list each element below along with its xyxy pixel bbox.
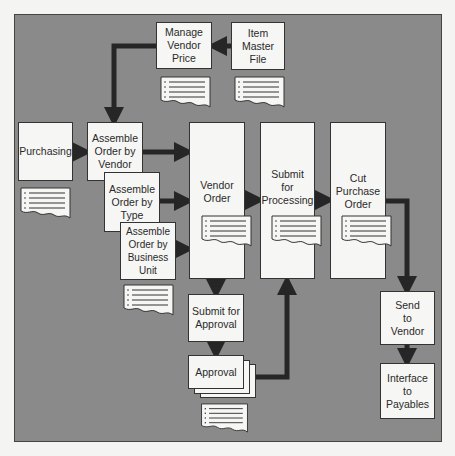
node-vendor-order: Vendor Order bbox=[189, 122, 245, 279]
node-submit-for-processing: Submit for Processing bbox=[260, 122, 315, 279]
node-assemble-by-business-unit: Assemble Order by Business Unit bbox=[120, 222, 176, 280]
node-interface-to-payables: Interface to Payables bbox=[380, 363, 435, 419]
document-icon bbox=[271, 215, 322, 247]
node-submit-for-approval: Submit for Approval bbox=[188, 294, 244, 342]
document-icon bbox=[20, 187, 71, 219]
document-icon bbox=[201, 215, 252, 247]
document-icon bbox=[160, 76, 211, 108]
node-approval: Approval bbox=[188, 355, 244, 389]
document-icon bbox=[234, 76, 285, 108]
node-item-master-file: Item Master File bbox=[231, 22, 285, 70]
node-manage-vendor-price: Manage Vendor Price bbox=[156, 22, 212, 69]
document-icon bbox=[199, 403, 250, 433]
node-purchasing: Purchasing bbox=[18, 122, 73, 181]
node-send-to-vendor: Send to Vendor bbox=[380, 291, 435, 345]
node-cut-purchase-order: Cut Purchase Order bbox=[330, 122, 386, 279]
document-icon bbox=[341, 215, 392, 247]
document-icon bbox=[123, 284, 174, 316]
